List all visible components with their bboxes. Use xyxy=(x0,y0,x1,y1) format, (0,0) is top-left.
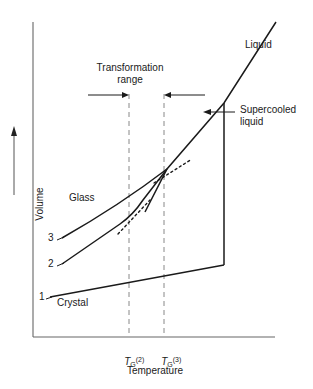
liquid-label: Liquid xyxy=(245,39,272,51)
glass-curve-2 xyxy=(62,169,167,264)
plot-canvas xyxy=(0,0,313,389)
tangent-tg2-dotted xyxy=(118,200,150,234)
glass-transition-diagram: Transformation range Liquid Supercooled … xyxy=(0,0,313,389)
tg2-superscript: (2) xyxy=(136,356,145,363)
volume-axis-arrow xyxy=(11,126,17,195)
curve-label-2: 2 xyxy=(48,258,54,270)
curve1-leader xyxy=(46,297,52,299)
crystal-curve xyxy=(50,265,224,297)
crystal-label: Crystal xyxy=(57,297,88,309)
x-axis-title: Temperature xyxy=(95,365,215,377)
curve-label-1: 1 xyxy=(39,291,45,303)
tg3-superscript: (3) xyxy=(173,356,182,363)
transformation-range-arrows xyxy=(88,92,205,98)
y-axis-title: Volume xyxy=(34,164,45,244)
curve-label-3: 3 xyxy=(48,232,54,244)
transformation-range-label-line2: range xyxy=(78,74,182,86)
supercooled-liquid-label-line2: liquid xyxy=(240,116,263,128)
curve2-leader xyxy=(57,263,64,266)
supercooled-liquid-label-line1: Supercooled xyxy=(240,104,296,116)
glass-label: Glass xyxy=(69,192,95,204)
curve3-leader xyxy=(57,237,64,240)
transformation-range-label-line1: Transformation xyxy=(78,62,182,74)
